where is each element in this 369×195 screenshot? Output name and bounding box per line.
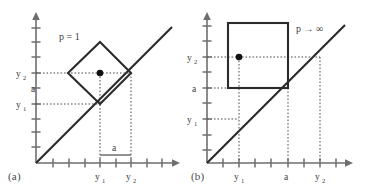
panel-a-norm-label: p = 1	[59, 31, 80, 42]
panel-a-label-x-y2: y	[126, 172, 131, 182]
panel-a-caption: (a)	[8, 170, 21, 182]
panel-a-center-point	[97, 70, 104, 77]
panel-b-label-y2: y	[187, 53, 192, 63]
panel-a: p = 1 y 2 a y 1 y 1 a y 2	[0, 0, 185, 195]
panel-b-y-axis-arrow	[203, 12, 211, 20]
panel-b-norm-label: p → ∞	[296, 23, 323, 34]
panel-b-x-axis-arrow	[345, 159, 353, 167]
panel-b-label-x-y1-sub: 1	[241, 177, 244, 184]
panel-b-label-x-y2: y	[315, 172, 320, 182]
panel-b-label-x-a: a	[284, 172, 289, 182]
panel-b-label-y1: y	[187, 115, 192, 125]
panel-b-label-x-y2-sub: 2	[322, 177, 325, 184]
panel-b-label-y1-sub: 1	[194, 120, 197, 127]
panel-a-y-axis-labels: y 2 a y 1	[16, 69, 36, 112]
panel-b-y-axis-labels: y 2 a y 1	[187, 53, 197, 127]
panel-b-x-axis-labels: y 1 a y 2	[234, 172, 325, 184]
panel-a-label-y1: y	[16, 100, 21, 110]
panel-a-label-y2: y	[16, 69, 21, 79]
panel-b-center-point	[236, 54, 243, 61]
panel-b-label-x-y1: y	[234, 172, 239, 182]
panel-a-label-x-y2-sub: 2	[133, 177, 136, 184]
panel-a-y-axis-arrow	[32, 12, 40, 20]
panel-b-label-y2-sub: 2	[194, 58, 197, 65]
panel-a-label-y2-sub: 2	[23, 74, 26, 81]
panel-b-label-a-y: a	[192, 84, 197, 94]
panel-a-x-axis-arrow	[172, 159, 180, 167]
panel-b: p → ∞ y 2 a y 1 y 1 a y 2	[185, 0, 369, 195]
panel-b-caption: (b)	[191, 170, 204, 182]
panel-a-label-x-y1-sub: 1	[102, 177, 105, 184]
panel-a-label-x-y1: y	[95, 172, 100, 182]
panel-a-label-x-a: a	[112, 143, 117, 153]
figure-container: p = 1 y 2 a y 1 y 1 a y 2 (a)	[0, 0, 369, 195]
panel-a-label-y1-sub: 1	[23, 105, 26, 112]
